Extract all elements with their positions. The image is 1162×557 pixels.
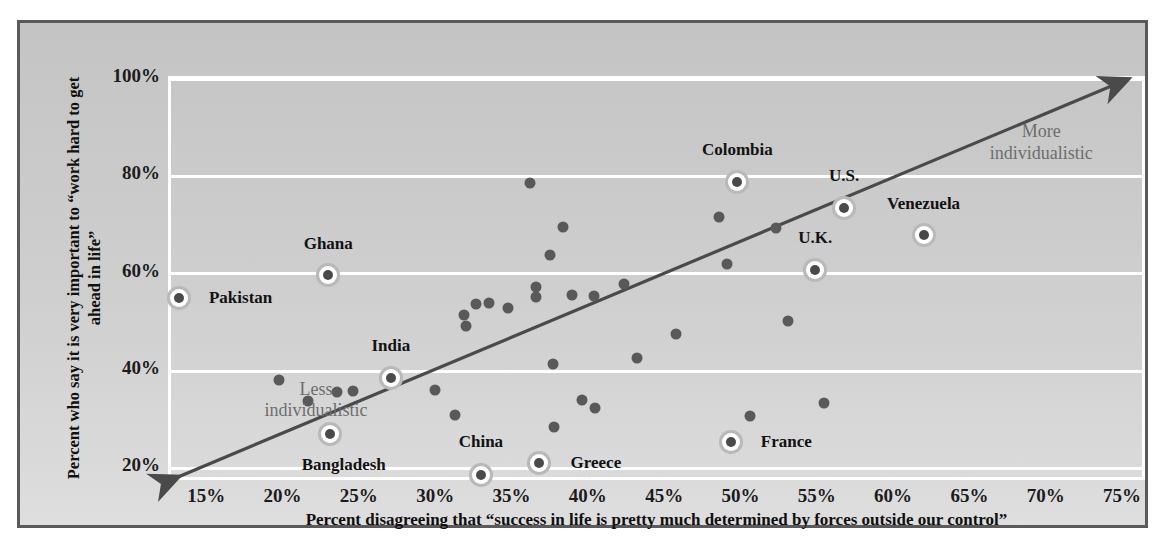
gridline-40 bbox=[171, 370, 1142, 373]
data-point bbox=[558, 221, 569, 232]
point-label-greece: Greece bbox=[571, 453, 622, 473]
data-point bbox=[524, 178, 535, 189]
data-point bbox=[819, 398, 830, 409]
data-point bbox=[782, 316, 793, 327]
chart-outer-frame: 20%40%60%80%100% Percent who say it is v… bbox=[17, 20, 1148, 528]
data-point bbox=[714, 212, 725, 223]
data-point bbox=[590, 402, 601, 413]
x-tick-50: 50% bbox=[721, 485, 759, 507]
data-point bbox=[459, 309, 470, 320]
data-point bbox=[588, 291, 599, 302]
data-point bbox=[619, 279, 630, 290]
data-point bbox=[744, 410, 755, 421]
annotation-more-individualistic: Moreindividualistic bbox=[990, 121, 1093, 163]
annotation-line: individualistic bbox=[990, 142, 1093, 162]
data-point bbox=[547, 359, 558, 370]
gridline-80 bbox=[171, 175, 1142, 178]
x-tick-75: 75% bbox=[1103, 485, 1141, 507]
x-axis-tick-labels: 15%20%25%30%35%40%45%50%55%60%65%70%75% bbox=[20, 485, 1145, 513]
data-point bbox=[449, 410, 460, 421]
point-label-india: India bbox=[371, 336, 410, 356]
chart-figure: 20%40%60%80%100% Percent who say it is v… bbox=[0, 0, 1162, 557]
data-point bbox=[503, 303, 514, 314]
annotation-less-individualistic: Lessindividualistic bbox=[265, 379, 368, 421]
data-point bbox=[770, 222, 781, 233]
data-point-bangladesh bbox=[325, 429, 335, 439]
point-label-uk: U.K. bbox=[798, 228, 832, 248]
data-point-pakistan bbox=[174, 293, 184, 303]
y-tick-20: 20% bbox=[122, 454, 160, 476]
data-point-uk bbox=[810, 265, 820, 275]
point-label-china: China bbox=[459, 432, 503, 452]
x-tick-45: 45% bbox=[645, 485, 683, 507]
data-point bbox=[721, 259, 732, 270]
gridline-60 bbox=[171, 272, 1142, 275]
data-point-india bbox=[386, 373, 396, 383]
y-tick-40: 40% bbox=[122, 357, 160, 379]
x-tick-15: 15% bbox=[187, 485, 225, 507]
data-point bbox=[483, 298, 494, 309]
x-tick-40: 40% bbox=[569, 485, 607, 507]
data-point-venezuela bbox=[919, 230, 929, 240]
x-tick-55: 55% bbox=[798, 485, 836, 507]
data-point bbox=[576, 395, 587, 406]
x-tick-65: 65% bbox=[950, 485, 988, 507]
point-label-ghana: Ghana bbox=[304, 234, 353, 254]
x-tick-35: 35% bbox=[492, 485, 530, 507]
x-tick-60: 60% bbox=[874, 485, 912, 507]
data-point-greece bbox=[534, 458, 544, 468]
point-label-bangladesh: Bangladesh bbox=[302, 455, 386, 475]
data-point-ghana bbox=[323, 270, 333, 280]
data-point bbox=[471, 299, 482, 310]
data-point bbox=[549, 421, 560, 432]
x-tick-20: 20% bbox=[263, 485, 301, 507]
data-point-us bbox=[839, 203, 849, 213]
data-point bbox=[430, 384, 441, 395]
point-label-us: U.S. bbox=[829, 166, 859, 186]
x-axis-title: Percent disagreeing that “success in lif… bbox=[168, 510, 1145, 530]
y-tick-100: 100% bbox=[113, 65, 161, 87]
data-point-france bbox=[726, 437, 736, 447]
gridline-100 bbox=[171, 78, 1142, 81]
plot-area: PakistanGhanaBangladeshIndiaChinaGreeceF… bbox=[168, 76, 1145, 480]
point-label-colombia: Colombia bbox=[702, 140, 773, 160]
point-label-france: France bbox=[761, 432, 812, 452]
data-point-colombia bbox=[732, 177, 742, 187]
x-tick-70: 70% bbox=[1027, 485, 1065, 507]
point-label-venezuela: Venezuela bbox=[887, 194, 960, 214]
y-axis-title: Percent who say it is very important to … bbox=[56, 76, 112, 480]
annotation-line: More bbox=[1022, 121, 1061, 141]
data-point bbox=[544, 249, 555, 260]
data-point bbox=[460, 320, 471, 331]
data-point bbox=[567, 290, 578, 301]
annotation-line: Less bbox=[300, 379, 333, 399]
annotation-line: individualistic bbox=[265, 400, 368, 420]
data-point bbox=[631, 353, 642, 364]
data-point bbox=[530, 292, 541, 303]
x-tick-25: 25% bbox=[340, 485, 378, 507]
y-tick-80: 80% bbox=[122, 162, 160, 184]
y-tick-60: 60% bbox=[122, 260, 160, 282]
point-label-pakistan: Pakistan bbox=[209, 288, 272, 308]
data-point bbox=[671, 328, 682, 339]
x-tick-30: 30% bbox=[416, 485, 454, 507]
data-point-china bbox=[476, 470, 486, 480]
